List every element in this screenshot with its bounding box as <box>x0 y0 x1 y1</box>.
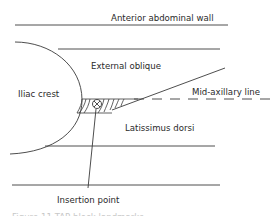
latissimus-dorsi-label: Latissimus dorsi <box>125 123 194 133</box>
insertion-point-marker <box>93 100 102 109</box>
insertion-point-leader <box>88 109 96 188</box>
figure-caption: Figure 11 TAP block landmarks <box>12 212 144 216</box>
tap-block-landmark-diagram: Anterior abdominal wall External oblique… <box>0 0 273 216</box>
mid-axillary-line-label: Mid-axillary line <box>192 87 260 97</box>
external-oblique-label: External oblique <box>91 61 161 71</box>
anterior-abdominal-wall-label: Anterior abdominal wall <box>111 13 214 23</box>
lumbar-triangle-hatching <box>77 99 138 113</box>
iliac-crest-label: Iliac crest <box>18 89 60 99</box>
insertion-point-label: Insertion point <box>57 195 120 205</box>
